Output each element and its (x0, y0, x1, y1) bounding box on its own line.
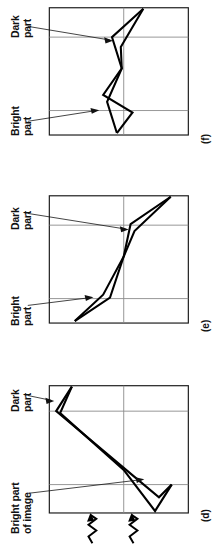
label-dark-part: Dark part (10, 207, 33, 230)
panel-e: Dark part Bright part (e) (0, 186, 222, 372)
label-bright-part-of-image: Bright part of image (10, 483, 33, 534)
panel-e-plot (0, 186, 222, 372)
caption-f: (f) (200, 134, 211, 144)
panel-d-plot (0, 372, 222, 557)
label-dark-part: Dark part (10, 15, 33, 38)
caption-e: (e) (200, 320, 211, 332)
figure-container: Dark part Bright part (f) Dark part Brig… (0, 0, 222, 557)
label-bright-part: Bright part (10, 296, 33, 326)
panel-f-plot (0, 0, 222, 182)
label-dark-part: Dark part (10, 389, 33, 412)
squiggle-arrow-1 (87, 513, 96, 543)
panel-d: Dark part Bright part of image (d) (0, 372, 222, 557)
label-bright-part: Bright part (10, 106, 33, 136)
caption-d: (d) (200, 509, 211, 522)
squiggle-arrow-2 (128, 513, 137, 543)
panel-f: Dark part Bright part (f) (0, 0, 222, 182)
plot-frame (49, 196, 188, 323)
plot-frame (49, 386, 188, 513)
